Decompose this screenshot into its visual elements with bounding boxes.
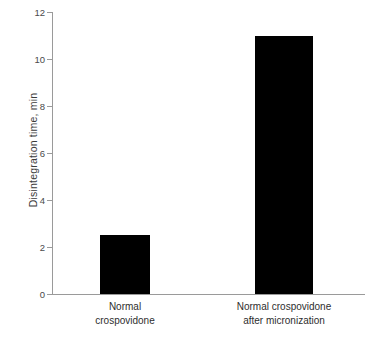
bar-normal-crospovidone-after-micronization bbox=[255, 36, 313, 295]
y-tick-mark bbox=[47, 153, 52, 154]
y-tick-label: 10 bbox=[34, 54, 45, 65]
y-tick-label: 6 bbox=[40, 148, 45, 159]
y-tick-label: 2 bbox=[40, 242, 45, 253]
bar-chart: Disintegration time, min 0 2 4 6 8 10 bbox=[0, 0, 370, 338]
y-tick-mark bbox=[47, 294, 52, 295]
y-axis-line bbox=[52, 12, 53, 294]
y-tick-mark bbox=[47, 12, 52, 13]
x-category-label-line: Normal crospovidone bbox=[209, 300, 359, 314]
y-tick-label: 12 bbox=[34, 7, 45, 18]
y-tick-mark bbox=[47, 106, 52, 107]
y-tick-label: 8 bbox=[40, 101, 45, 112]
x-category-label-0: Normal crospovidone bbox=[60, 300, 190, 327]
y-tick-mark bbox=[47, 59, 52, 60]
x-axis-line bbox=[52, 294, 365, 295]
y-tick-mark bbox=[47, 247, 52, 248]
y-tick-mark bbox=[47, 200, 52, 201]
x-category-label-1: Normal crospovidone after micronization bbox=[209, 300, 359, 327]
plot-area: 0 2 4 6 8 10 12 Normal bbox=[52, 12, 365, 294]
x-category-label-line: crospovidone bbox=[60, 314, 190, 328]
x-category-label-line: Normal bbox=[60, 300, 190, 314]
x-category-label-line: after micronization bbox=[209, 314, 359, 328]
bar-normal-crospovidone bbox=[100, 235, 150, 294]
y-tick-label: 0 bbox=[40, 289, 45, 300]
y-tick-label: 4 bbox=[40, 195, 45, 206]
